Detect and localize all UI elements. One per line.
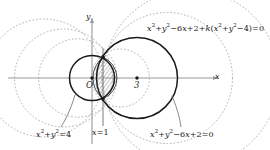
circle-equation-right-label: x2+y2−6x+2=0 — [150, 130, 214, 139]
circle-equation-left-label: x2+y2=4 — [36, 130, 71, 139]
dotted-circle-6 — [103, 0, 270, 150]
geometry-figure: x2+y2−6x+2+k(x2+y2−4)=0 x2+y2=4 x2+y2−6x… — [0, 0, 270, 150]
origin-label: O — [86, 80, 93, 90]
leader-right-circle — [172, 96, 181, 127]
intersection-point-lower — [101, 97, 105, 101]
family-of-circles-equation-label: x2+y2−6x+2+k(x2+y2−4)=0 — [147, 24, 264, 33]
center-3-label: 3 — [134, 80, 139, 90]
leader-lines — [61, 95, 181, 127]
intersection-point-upper — [101, 55, 105, 59]
radical-axis-equation-label: x=1 — [92, 128, 109, 137]
leader-left-circle — [61, 95, 75, 127]
y-axis-label: y — [86, 12, 91, 21]
x-axis-label: x — [215, 72, 220, 81]
